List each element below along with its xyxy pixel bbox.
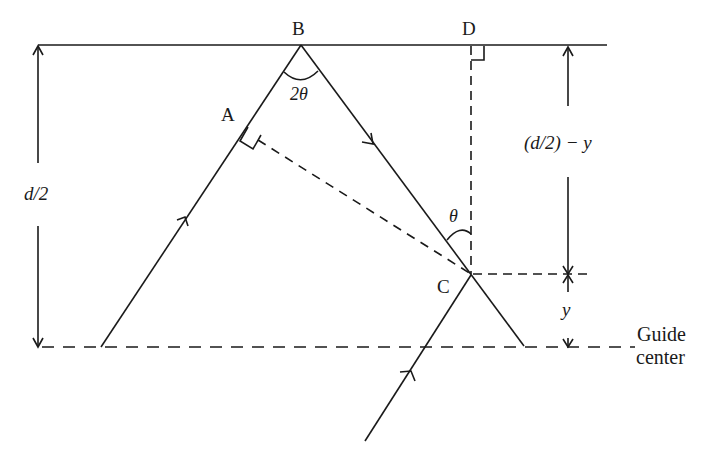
label-guide: Guide <box>637 323 686 345</box>
label-center: center <box>636 346 685 368</box>
label-half-width: d/2 <box>24 183 49 204</box>
label-angle-theta: θ <box>449 206 458 226</box>
label-lower-segment: y <box>560 299 571 320</box>
ray-direction-arrow-icon <box>400 371 415 381</box>
label-angle-2theta: 2θ <box>290 84 308 104</box>
ray-reflected <box>301 45 524 346</box>
angle-arc-theta <box>447 230 471 240</box>
perpendicular-AC <box>258 140 471 274</box>
ray-diagram: B D A C 2θ θ d/2 (d/2) − y y Guide cente… <box>0 0 709 463</box>
right-angle-marker-D <box>471 46 484 60</box>
label-upper-segment: (d/2) − y <box>524 132 592 154</box>
label-point-D: D <box>462 18 476 39</box>
label-point-C: C <box>437 276 450 297</box>
angle-arc-2theta <box>284 71 318 80</box>
label-point-A: A <box>221 104 235 125</box>
ray-lower <box>365 275 471 441</box>
label-point-B: B <box>292 18 305 39</box>
ray-incident <box>101 45 301 347</box>
right-angle-marker-A <box>240 127 261 149</box>
